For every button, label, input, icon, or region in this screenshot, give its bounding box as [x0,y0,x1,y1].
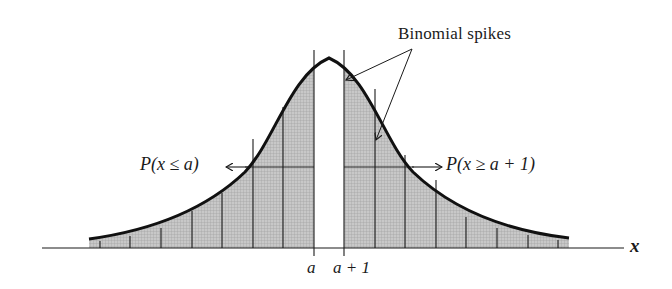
x-axis-label: x [630,235,640,257]
normal-curve [89,58,569,239]
right-shaded-region [89,58,569,248]
spike-pointer-arrow-icon [376,49,412,140]
tick-label-a: a [307,258,316,278]
probability-symbol: P [446,154,457,174]
tick-label-a-plus-1: a + 1 [333,258,370,278]
binomial-spikes-annotation: Binomial spikes [398,24,511,44]
right-tail-probability-label: P(x ≥ a + 1) [446,154,535,175]
left-shaded-region [89,58,569,248]
binomial-normal-approximation-figure: Binomial spikes P(x ≤ a) P(x ≥ a + 1) a … [0,0,672,289]
probability-expression: (x ≤ a) [151,154,199,174]
left-tail-probability-label: P(x ≤ a) [140,154,199,175]
probability-symbol: P [140,154,151,174]
probability-expression: (x ≥ a + 1) [457,154,535,174]
chart-canvas [0,0,672,289]
